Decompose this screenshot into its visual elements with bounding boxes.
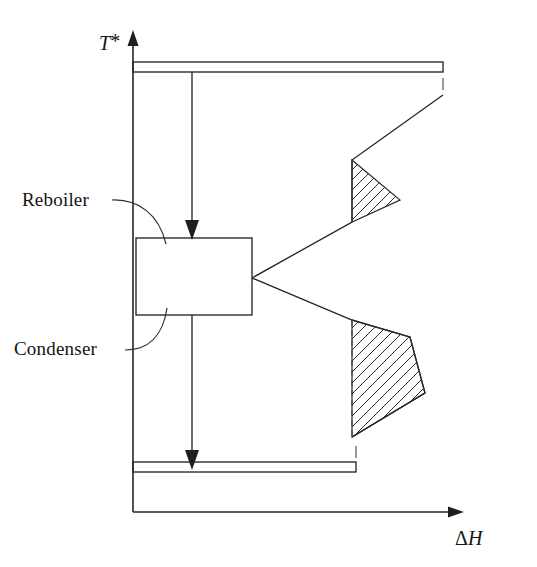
upper-composite-curve [252, 95, 443, 278]
condenser-duty-arrowhead [185, 450, 199, 470]
condenser-label: Condenser [14, 338, 98, 359]
reboiler-condenser-box [136, 238, 252, 315]
x-axis-label-h: H [467, 527, 484, 549]
reboiler-label-group: Reboiler [22, 189, 166, 244]
y-axis-label-superscript: * [110, 30, 120, 52]
y-axis-arrowhead [128, 30, 139, 46]
t-star-delta-h-diagram: T* ΔH [0, 0, 537, 567]
x-axis-label: ΔH [455, 527, 484, 549]
x-axis-label-delta: Δ [455, 527, 468, 549]
x-axis-arrowhead [448, 507, 464, 518]
upper-pocket-hatching [330, 130, 442, 272]
upper-hatched-pocket [330, 130, 442, 272]
condenser-duty-arrow [185, 315, 199, 470]
hot-utility-strip-rect [133, 62, 443, 72]
reboiler-duty-arrow [185, 72, 199, 240]
hot-utility-strip [133, 62, 443, 90]
y-axis-label: T* [99, 30, 120, 54]
lower-pocket-outline [352, 320, 425, 437]
condenser-leader-line [125, 308, 167, 350]
reboiler-label: Reboiler [22, 189, 89, 210]
axes-group [128, 30, 465, 518]
cold-utility-strip [133, 446, 356, 472]
reboiler-duty-arrowhead [185, 220, 199, 240]
lower-pocket-inner-crease [352, 393, 425, 437]
lower-pocket-hatching [330, 240, 460, 515]
cold-utility-strip-rect [133, 462, 356, 472]
diagram-root: T* ΔH [0, 0, 537, 567]
lower-hatched-pocket [330, 240, 460, 515]
